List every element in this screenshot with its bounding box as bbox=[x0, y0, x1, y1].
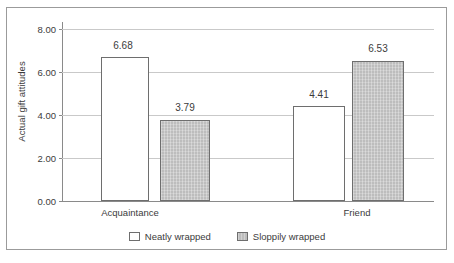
bar-value-acquaintance-neatly-wrapped: 6.68 bbox=[93, 40, 153, 51]
y-tick-label-2: 2.00 bbox=[10, 153, 56, 164]
white-square-swatch-icon bbox=[129, 232, 140, 241]
y-tick-label-4: 4.00 bbox=[10, 110, 56, 121]
bar-acquaintance-sloppily-wrapped bbox=[160, 120, 210, 202]
y-tick-label-8: 8.00 bbox=[10, 24, 56, 35]
gridline-8 bbox=[62, 29, 434, 30]
bar-friend-neatly-wrapped bbox=[293, 106, 345, 201]
x-category-label-friend: Friend bbox=[297, 207, 417, 218]
legend-item-neatly-wrapped[interactable]: Neatly wrapped bbox=[129, 231, 211, 242]
legend-item-sloppily-wrapped[interactable]: Sloppily wrapped bbox=[237, 231, 325, 242]
bar-value-acquaintance-sloppily-wrapped: 3.79 bbox=[155, 102, 215, 113]
gray-square-swatch-icon bbox=[237, 232, 248, 241]
x-axis-line bbox=[62, 201, 434, 202]
chart-legend: Neatly wrapped Sloppily wrapped bbox=[0, 231, 454, 242]
bar-value-friend-neatly-wrapped: 4.41 bbox=[289, 89, 349, 100]
y-tick-label-0: 0.00 bbox=[10, 196, 56, 207]
bar-chart-figure: Actual gift attitudes 8.00 6.00 4.00 2.0… bbox=[0, 0, 454, 263]
legend-label-neatly-wrapped: Neatly wrapped bbox=[145, 231, 211, 242]
bar-acquaintance-neatly-wrapped bbox=[101, 57, 149, 201]
bar-friend-sloppily-wrapped bbox=[352, 61, 404, 201]
bar-value-friend-sloppily-wrapped: 6.53 bbox=[348, 43, 408, 54]
y-axis-title: Actual gift attitudes bbox=[16, 37, 27, 167]
x-category-label-acquaintance: Acquaintance bbox=[70, 207, 190, 218]
legend-label-sloppily-wrapped: Sloppily wrapped bbox=[253, 231, 325, 242]
plot-area bbox=[62, 29, 434, 201]
y-tick-label-6: 6.00 bbox=[10, 67, 56, 78]
